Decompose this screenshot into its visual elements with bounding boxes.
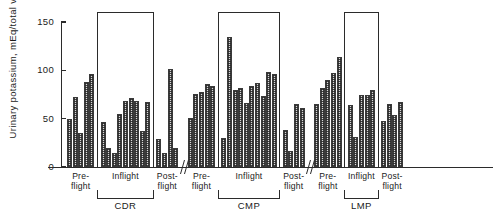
x-axis-line [48,167,493,168]
phase-label: Inflight [103,171,147,181]
bar [173,148,178,167]
phase-label-line1: Post- [157,171,178,181]
bar [168,69,173,167]
subject-label-cmp: CMP [219,200,279,211]
bar [288,151,293,167]
phase-label-line1: Pre- [319,171,336,181]
phase-label: Pre-flight [59,171,103,191]
phase-label-line1: Inflight [236,171,263,181]
bar [387,104,392,167]
phase-label-line1: Post- [382,171,403,181]
phase-label-line2: flight [284,181,303,191]
bar [210,86,215,167]
subject-bracket [97,190,154,199]
bar [193,94,198,167]
phase-label-line2: flight [318,181,337,191]
bar [162,153,167,167]
bar [78,133,83,167]
bar [331,73,336,167]
bar [73,97,78,167]
phase-label: Pre-flight [180,171,224,191]
inflight-region-box [344,12,378,167]
phase-label-line1: Pre- [72,171,89,181]
phase-label-line1: Pre- [193,171,210,181]
bar [294,104,299,167]
bar [325,80,330,167]
bar [67,119,72,167]
subject-label-cdr: CDR [95,200,155,211]
bar [156,139,161,167]
bar [84,82,89,167]
phase-label-line2: flight [158,181,177,191]
bar [199,92,204,167]
bar [283,130,288,167]
bar [337,57,342,167]
phase-label-line2: flight [71,181,90,191]
bar [89,74,94,167]
phase-label-line1: Inflight [112,171,139,181]
phase-label: Inflight [227,171,271,181]
chart-figure: Urinary potassium, mEq/total volume 0501… [0,0,500,221]
phase-label-line1: Post- [283,171,304,181]
phase-label-line2: flight [382,181,401,191]
bar [381,121,386,167]
subject-label-lmp: LMP [331,200,391,211]
inflight-region-box [218,12,280,167]
bar [392,115,397,167]
phase-label-line2: flight [192,181,211,191]
bar [398,102,403,167]
bar [300,108,305,167]
phase-label: Post-flight [370,171,414,191]
subject-bracket [344,190,378,199]
bar [205,84,210,167]
bar [320,88,325,167]
bar [314,104,319,167]
subject-bracket [218,190,280,199]
inflight-region-box [97,12,154,167]
